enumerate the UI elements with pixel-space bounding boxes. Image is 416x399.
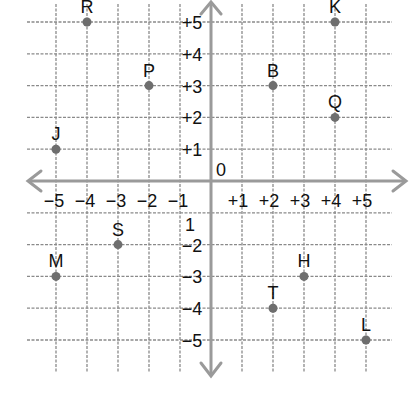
point-l: L [361, 315, 371, 345]
coordinate-plane: −5−4−3−2−1+1+2+3+4+5 +5+4+3+2+11−2−3−4−5… [0, 0, 416, 399]
x-tick-label: −5 [44, 191, 65, 211]
y-tick-label: +3 [182, 77, 203, 97]
point-label: H [298, 251, 311, 271]
x-tick-label: +2 [259, 191, 280, 211]
point-marker [300, 272, 309, 281]
x-tick-label: −2 [137, 191, 158, 211]
y-tick-label: −5 [182, 331, 203, 351]
point-label: L [361, 315, 371, 335]
point-marker [331, 113, 340, 122]
x-axis-tick-labels: −5−4−3−2−1+1+2+3+4+5 [44, 191, 373, 211]
point-s: S [112, 220, 124, 250]
x-tick-label: −3 [106, 191, 127, 211]
point-label: S [112, 220, 124, 240]
point-marker [331, 18, 340, 27]
point-k: K [329, 0, 341, 27]
point-label: M [49, 251, 64, 271]
point-label: R [81, 0, 94, 17]
y-tick-label: −2 [182, 236, 203, 256]
point-marker [83, 18, 92, 27]
point-marker [269, 81, 278, 90]
point-marker [52, 145, 61, 154]
x-tick-label: +4 [321, 191, 342, 211]
y-tick-label: +2 [182, 108, 203, 128]
x-tick-label: +1 [228, 191, 249, 211]
x-tick-label: −1 [168, 191, 189, 211]
y-tick-label: 1 [185, 215, 195, 235]
y-tick-label: −3 [182, 267, 203, 287]
point-p: P [143, 61, 155, 91]
point-label: J [52, 124, 61, 144]
y-tick-label: +4 [182, 45, 203, 65]
y-tick-label: +5 [182, 13, 203, 33]
y-tick-label: +1 [182, 140, 203, 160]
x-tick-label: +3 [290, 191, 311, 211]
coordinate-grid-diagram: −5−4−3−2−1+1+2+3+4+5 +5+4+3+2+11−2−3−4−5… [0, 0, 416, 399]
x-tick-label: +5 [352, 191, 373, 211]
y-tick-label: −4 [182, 299, 203, 319]
point-label: B [267, 61, 279, 81]
point-t: T [268, 283, 279, 313]
x-tick-label: −4 [75, 191, 96, 211]
origin-label: 0 [216, 160, 226, 180]
point-marker [269, 304, 278, 313]
point-label: P [143, 61, 155, 81]
axes [28, 2, 406, 376]
point-marker [145, 81, 154, 90]
point-label: Q [328, 92, 342, 112]
point-marker [52, 272, 61, 281]
point-label: K [329, 0, 341, 17]
point-j: J [52, 124, 61, 154]
point-b: B [267, 61, 279, 91]
point-label: T [268, 283, 279, 303]
point-marker [362, 336, 371, 345]
point-marker [114, 240, 123, 249]
